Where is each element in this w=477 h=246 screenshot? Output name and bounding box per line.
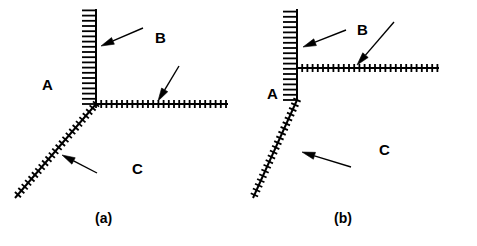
region-label-c: C: [379, 142, 390, 157]
horizontal-interface: [297, 64, 439, 72]
diagonal-interface: [251, 98, 301, 198]
panel-b: ABC(b): [239, 0, 477, 246]
panel-caption-a: (a): [95, 211, 112, 225]
region-label-c: C: [132, 161, 143, 176]
arrow-to-horizontal-interface: [158, 66, 179, 101]
arrow-to-diagonal-interface: [302, 152, 351, 167]
region-label-a: A: [267, 86, 278, 101]
panel-caption-b: (b): [334, 211, 352, 225]
figure-root: ABC(a)ABC(b): [0, 0, 477, 246]
arrow-to-diagonal-interface: [62, 155, 97, 173]
vertical-interface: [82, 9, 96, 104]
arrow-to-vertical-interface: [101, 28, 143, 46]
arrow-to-vertical-interface: [303, 30, 346, 47]
diagonal-interface: [15, 101, 99, 198]
region-label-a: A: [42, 77, 53, 92]
panel-a: ABC(a): [0, 0, 238, 246]
region-label-b: B: [357, 22, 368, 37]
horizontal-interface: [96, 100, 228, 108]
panel-a-drawing: [0, 0, 238, 246]
region-label-b: B: [155, 30, 166, 45]
vertical-interface: [283, 9, 297, 100]
